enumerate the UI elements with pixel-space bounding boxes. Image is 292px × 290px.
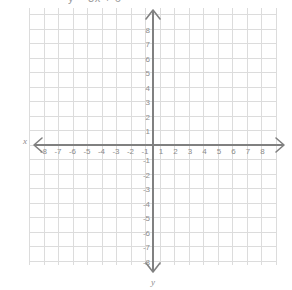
svg-text:4: 4 [202,147,207,156]
svg-text:1: 1 [146,127,151,136]
svg-text:-8: -8 [40,147,48,156]
svg-text:8: 8 [260,147,265,156]
svg-text:5: 5 [146,69,151,78]
svg-text:-1: -1 [143,156,151,165]
svg-text:-3: -3 [112,147,120,156]
graph-canvas: y = 3x + 6 [0,0,292,290]
svg-text:8: 8 [146,26,151,35]
svg-text:2: 2 [146,113,151,122]
svg-text:6: 6 [231,147,236,156]
svg-text:5: 5 [217,147,222,156]
svg-text:3: 3 [146,98,151,107]
coordinate-plane: -8 -7 -6 -5 -4 -3 -2 -1 1 2 3 4 5 6 7 8 … [0,0,292,290]
svg-text:7: 7 [246,147,251,156]
y-axis-label: y [150,277,155,287]
svg-text:7: 7 [146,40,151,49]
svg-text:-5: -5 [143,214,151,223]
svg-text:2: 2 [173,147,178,156]
svg-text:-2: -2 [143,171,151,180]
y-tick-labels: 8 7 6 5 4 3 2 1 -1 -2 -3 -4 -5 -6 -7 -8 [143,26,151,267]
svg-text:-6: -6 [69,147,77,156]
svg-text:-4: -4 [143,200,151,209]
svg-text:-7: -7 [143,243,151,252]
svg-text:-8: -8 [143,258,151,267]
svg-text:4: 4 [146,84,151,93]
svg-text:-2: -2 [127,147,135,156]
svg-text:-7: -7 [54,147,62,156]
svg-text:-5: -5 [83,147,91,156]
svg-text:1: 1 [159,147,164,156]
svg-text:-3: -3 [143,185,151,194]
svg-text:6: 6 [146,55,151,64]
svg-text:3: 3 [188,147,193,156]
svg-text:-6: -6 [143,229,151,238]
svg-text:-4: -4 [98,147,106,156]
svg-text:-1: -1 [141,147,149,156]
x-axis-label: x [22,136,27,146]
